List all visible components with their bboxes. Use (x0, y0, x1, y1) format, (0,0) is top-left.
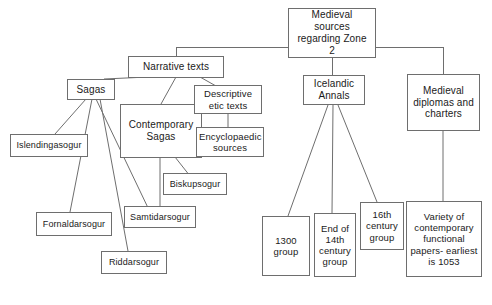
node-sagas[interactable]: Sagas (67, 79, 115, 100)
node-riddarsogur-label: Riddarsogur (104, 257, 164, 268)
edge-root-to-narrative-texts (176, 47, 288, 56)
node-riddarsogur[interactable]: Riddarsogur (101, 251, 167, 274)
node-biskupsogur[interactable]: Biskupsogur (163, 173, 227, 195)
node-root-label: Medieval sources regarding Zone 2 (291, 9, 373, 56)
node-sagas-label: Sagas (70, 84, 112, 96)
node-16th-century-group[interactable]: 16th century group (360, 202, 404, 250)
node-end-14th-century-group-label: End of 14th century group (317, 223, 353, 268)
node-1300-group[interactable]: 1300 group (262, 216, 310, 276)
edge-annals-to-1300-group (288, 105, 328, 216)
edge-root-to-medieval-diplomas (376, 47, 443, 74)
edge-sagas-to-islendingasogur (55, 99, 86, 134)
node-descriptive-etic-texts-label: Descriptive etic texts (197, 88, 259, 110)
node-medieval-diplomas-and-charters-label: Medieval diplomas and charters (410, 85, 477, 120)
node-encyclopaedic-sources[interactable]: Encyclopaedic sources (196, 127, 264, 157)
node-samtidarsogur[interactable]: Samtidarsogur (124, 206, 196, 228)
node-icelandic-annals-label: Icelandic Annals (306, 78, 362, 102)
node-narrative-texts-label: Narrative texts (131, 61, 221, 73)
node-islendingasogur-label: Islendingasogur (13, 140, 85, 151)
edge-narrative-to-contemporary-sagas (161, 77, 176, 104)
node-biskupsogur-label: Biskupsogur (166, 179, 224, 190)
node-contemporary-sagas[interactable]: Contemporary Sagas (120, 104, 202, 158)
edge-annals-to-16th-group (338, 105, 377, 202)
diagram-canvas: Medieval sources regarding Zone 2 Narrat… (0, 0, 492, 305)
node-islendingasogur[interactable]: Islendingasogur (10, 134, 88, 157)
node-1300-group-label: 1300 group (265, 235, 307, 257)
node-samtidarsogur-label: Samtidarsogur (127, 212, 193, 223)
node-root[interactable]: Medieval sources regarding Zone 2 (288, 8, 376, 58)
node-contemporary-sagas-label: Contemporary Sagas (123, 119, 199, 143)
node-fornaldarsogur-label: Fornaldarsogur (39, 219, 109, 230)
edge-annals-to-end-14th-group (332, 105, 333, 213)
node-encyclopaedic-sources-label: Encyclopaedic sources (199, 131, 261, 153)
node-descriptive-etic-texts[interactable]: Descriptive etic texts (194, 85, 262, 114)
node-end-14th-century-group[interactable]: End of 14th century group (314, 213, 356, 277)
node-variety-of-contemporary-papers[interactable]: Variety of contemporary functional paper… (406, 201, 482, 277)
node-variety-of-contemporary-papers-label: Variety of contemporary functional paper… (409, 211, 479, 267)
node-narrative-texts[interactable]: Narrative texts (128, 56, 224, 78)
node-medieval-diplomas-and-charters[interactable]: Medieval diplomas and charters (407, 74, 480, 131)
node-icelandic-annals[interactable]: Icelandic Annals (303, 75, 365, 105)
node-fornaldarsogur[interactable]: Fornaldarsogur (36, 212, 112, 236)
node-16th-century-group-label: 16th century group (363, 209, 401, 243)
